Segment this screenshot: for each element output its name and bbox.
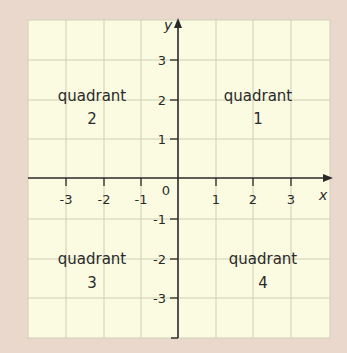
grid-background [28,20,330,338]
quadrant-4-word: quadrant [229,250,298,268]
x-tick-label: 1 [212,192,220,207]
coordinate-plane: y x 0 -3 -2 -1 1 2 3 3 2 1 -1 -2 -3 quad… [0,0,347,353]
x-tick-label: -3 [60,192,73,207]
quadrant-2-number: 2 [87,110,97,128]
y-axis-label: y [163,17,173,33]
origin-label: 0 [162,183,170,198]
quadrant-4-number: 4 [258,274,268,292]
quadrant-1-number: 1 [253,110,263,128]
y-tick-label: -2 [153,252,166,267]
x-axis-label: x [318,187,328,203]
y-tick-label: -3 [153,291,166,306]
quadrant-3-word: quadrant [58,250,127,268]
y-tick-label: 2 [158,93,166,108]
y-tick-label: 1 [158,132,166,147]
y-tick-label: -1 [153,212,166,227]
quadrant-2-word: quadrant [58,87,127,105]
x-tick-label: -2 [98,192,111,207]
x-tick-label: 2 [249,192,257,207]
y-tick-label: 3 [158,53,166,68]
x-tick-label: 3 [287,192,295,207]
quadrant-3-number: 3 [87,274,97,292]
x-tick-label: -1 [135,192,148,207]
quadrant-1-word: quadrant [224,87,293,105]
